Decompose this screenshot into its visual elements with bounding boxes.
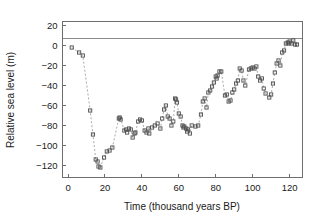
data-point-marker [172, 120, 175, 123]
sea-level-chart-figure: 200−20−40−60−80−100−120 020406080100120 … [0, 0, 317, 219]
x-axis-ticks [68, 174, 290, 178]
data-series-group [70, 39, 298, 169]
x-tick-label: 120 [282, 182, 298, 193]
x-tick-label: 0 [65, 182, 70, 193]
series-dashed-line [72, 41, 297, 168]
data-point-marker [102, 156, 105, 159]
y-axis-ticks [63, 26, 67, 166]
y-axis-tick-labels: 200−20−40−60−80−100−120 [36, 20, 57, 171]
y-tick-label: −20 [41, 60, 57, 71]
x-tick-label: 100 [245, 182, 261, 193]
y-tick-label: 0 [52, 40, 57, 51]
series-markers [70, 39, 298, 169]
y-tick-label: −120 [36, 160, 57, 171]
x-tick-label: 60 [174, 182, 185, 193]
y-tick-label: 20 [47, 20, 58, 31]
y-tick-label: −60 [41, 100, 57, 111]
chart-canvas: 200−20−40−60−80−100−120 020406080100120 … [0, 0, 317, 219]
x-tick-label: 20 [100, 182, 111, 193]
x-axis-title: Time (thousand years BP) [124, 201, 240, 212]
plot-frame [63, 22, 303, 178]
y-axis-title: Relative sea level (m) [5, 52, 16, 148]
x-axis-tick-labels: 020406080100120 [65, 182, 297, 193]
x-tick-label: 80 [210, 182, 221, 193]
y-tick-label: −100 [36, 140, 57, 151]
y-tick-label: −80 [41, 120, 57, 131]
y-tick-label: −40 [41, 80, 57, 91]
x-tick-label: 40 [137, 182, 148, 193]
